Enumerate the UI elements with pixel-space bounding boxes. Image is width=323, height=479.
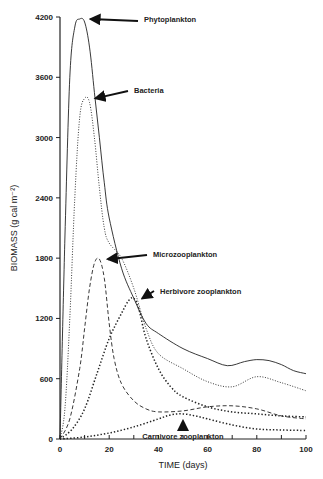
annotation-label: Herbivore zooplankton (160, 287, 242, 296)
x-tick-label: 60 (203, 445, 212, 454)
x-tick-label: 0 (58, 445, 63, 454)
annotations: PhytoplanktonBacteriaMicrozooplanktonHer… (91, 15, 242, 441)
x-tick-label: 20 (105, 445, 114, 454)
y-tick-label: 0 (49, 435, 54, 444)
x-tick-label: 100 (299, 445, 313, 454)
x-axis-title: TIME (days) (158, 460, 207, 470)
annotation-label: Phytoplankton (144, 15, 197, 24)
annotation-label: Bacteria (134, 86, 164, 95)
series-group (60, 18, 306, 439)
y-tick-label: 1800 (35, 254, 53, 263)
annotation-arrow-icon (142, 291, 154, 298)
annotation-label: Carnivore zooplankton (142, 432, 224, 441)
x-tick-label: 80 (252, 445, 261, 454)
y-tick-label: 1200 (35, 314, 53, 323)
axes: 0600120018002400300036004200020406080100 (35, 13, 313, 454)
y-tick-label: 600 (40, 375, 54, 384)
annotation-arrow-icon (96, 91, 128, 98)
y-axis-title: BIOMASS (g cal m⁻²) (9, 185, 19, 272)
series-phytoplankton (60, 18, 306, 439)
biomass-line-chart: 0600120018002400300036004200020406080100… (0, 0, 323, 479)
annotation-label: Microzooplankton (153, 250, 218, 259)
annotation-arrow-icon (108, 255, 147, 259)
y-tick-label: 2400 (35, 194, 53, 203)
series-bacteria (60, 97, 306, 439)
x-tick-label: 40 (154, 445, 163, 454)
y-tick-label: 3000 (35, 134, 53, 143)
y-tick-label: 3600 (35, 73, 53, 82)
y-tick-label: 4200 (35, 13, 53, 22)
annotation-arrow-icon (91, 19, 138, 21)
